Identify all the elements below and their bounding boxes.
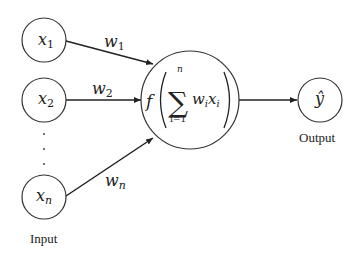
svg-text:ŷ: ŷ (314, 89, 325, 108)
perceptron-diagram: x1 x2 xn w1 w2 wn f n ∑ i=1 wixi ŷ Input… (0, 0, 358, 257)
svg-text:x1: x1 (38, 30, 54, 51)
svg-text:i=1: i=1 (170, 114, 186, 124)
right-paren (224, 72, 230, 128)
weight-wn: wn (105, 171, 126, 192)
weight-w1: w1 (104, 32, 125, 53)
output-label: Output (299, 130, 336, 145)
input-node-xn: xn (22, 175, 66, 219)
input-node-x2: x2 (22, 78, 66, 122)
input-label: Input (30, 231, 58, 246)
activation-function: f (144, 91, 155, 111)
input-node-x1: x1 (22, 18, 66, 62)
weight-w2: w2 (92, 79, 113, 100)
output-node: ŷ (298, 78, 342, 122)
svg-text:x2: x2 (38, 89, 54, 110)
left-paren (161, 72, 167, 128)
svg-text:wixi: wixi (192, 90, 220, 109)
ellipsis-dots (43, 133, 45, 165)
svg-text:n: n (177, 64, 183, 74)
neuron-node: f n ∑ i=1 wixi (141, 51, 239, 149)
svg-text:xn: xn (36, 186, 52, 207)
